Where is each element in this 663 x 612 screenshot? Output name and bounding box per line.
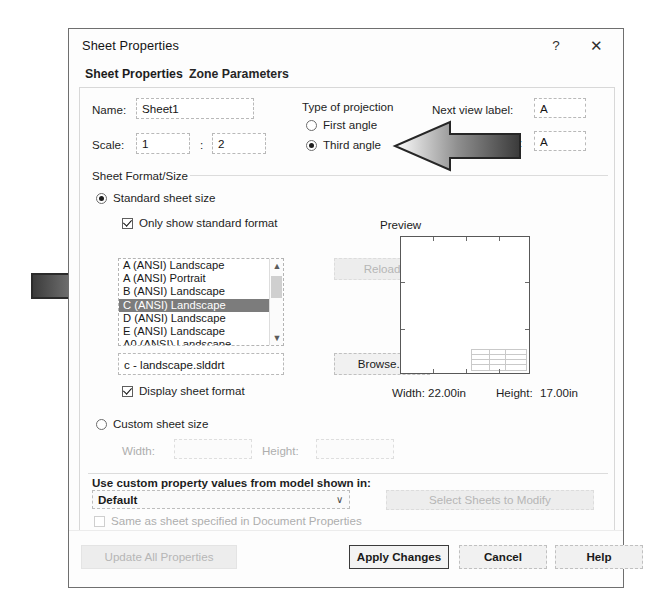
listbox-item[interactable]: D (ANSI) Landscape [119, 312, 283, 325]
scale-numerator-input[interactable]: 1 [136, 133, 190, 154]
projection-group-label: Type of projection [302, 100, 394, 113]
custom-property-label: Use custom property values from model sh… [92, 476, 371, 489]
listbox-item[interactable]: A (ANSI) Portrait [119, 272, 283, 285]
annotation-arrow-pointing-to-third-angle [392, 120, 522, 172]
tab-sheet-properties[interactable]: Sheet Properties [81, 65, 187, 83]
listbox-items: A (ANSI) LandscapeA (ANSI) PortraitB (AN… [119, 259, 283, 346]
preview-width-label: Width: [392, 386, 425, 399]
section-divider [88, 473, 608, 474]
listbox-item[interactable]: B (ANSI) Landscape [119, 285, 283, 298]
listbox-scrollbar[interactable]: ▲ ▼ [269, 259, 283, 345]
name-label: Name: [92, 103, 126, 116]
sheet-format-file-input[interactable]: c - landscape.slddrt [118, 353, 284, 375]
scroll-down-icon[interactable]: ▼ [270, 331, 284, 345]
help-button[interactable]: Help [555, 545, 643, 569]
help-icon[interactable]: ? [543, 35, 569, 57]
preview-title-block [471, 349, 527, 371]
next-datum-input[interactable]: A [534, 131, 586, 151]
custom-property-dropdown[interactable]: Default ∨ [92, 490, 350, 509]
listbox-item[interactable]: C (ANSI) Landscape [119, 299, 283, 312]
scale-denominator-input[interactable]: 2 [212, 133, 266, 154]
radio-custom-sheet-size[interactable] [96, 419, 107, 430]
listbox-item[interactable]: A0 (ANSI) Landscape [119, 338, 283, 346]
preview-width-value: 22.00in [428, 386, 466, 399]
custom-height-input[interactable] [316, 439, 394, 459]
preview-label: Preview [380, 218, 421, 231]
radio-standard-sheet-size[interactable] [96, 193, 107, 204]
name-input[interactable]: Sheet1 [136, 98, 254, 119]
scale-separator: : [200, 138, 203, 151]
preview-thumbnail [400, 236, 530, 374]
tabstrip: Sheet Properties Zone Parameters [69, 63, 623, 87]
preview-height-value: 17.00in [540, 386, 578, 399]
dialog-titlebar: Sheet Properties ? ✕ [69, 29, 623, 63]
custom-width-label: Width: [122, 444, 155, 457]
listbox-item[interactable]: A (ANSI) Landscape [119, 259, 283, 272]
standard-sheet-size-label: Standard sheet size [113, 191, 215, 204]
first-angle-label: First angle [323, 118, 377, 131]
checkbox-same-as-sheet-document-properties[interactable] [94, 516, 105, 527]
scrollbar-thumb[interactable] [271, 276, 282, 298]
dialog-footer: Update All Properties Apply Changes Canc… [69, 530, 623, 587]
sheet-properties-panel: Name: Sheet1 Scale: 1 : 2 Type of projec… [79, 87, 615, 531]
third-angle-label: Third angle [323, 138, 381, 151]
checkbox-only-show-standard-format[interactable] [122, 218, 133, 229]
sheet-properties-dialog: Sheet Properties ? ✕ Sheet Properties Zo… [68, 28, 624, 588]
preview-height-label: Height: [496, 386, 533, 399]
custom-property-dropdown-value: Default [98, 493, 137, 506]
update-all-properties-button[interactable]: Update All Properties [81, 545, 237, 569]
cancel-button[interactable]: Cancel [459, 545, 547, 569]
radio-first-angle[interactable] [306, 120, 317, 131]
scale-label: Scale: [92, 138, 124, 151]
next-view-label: Next view label: [432, 103, 513, 116]
close-icon[interactable]: ✕ [583, 35, 609, 57]
same-as-sheet-label: Same as sheet specified in Document Prop… [111, 514, 362, 527]
group-divider [190, 175, 608, 176]
sheet-format-group-label: Sheet Format/Size [92, 169, 188, 182]
tab-zone-parameters[interactable]: Zone Parameters [185, 65, 293, 83]
sheet-format-listbox[interactable]: A (ANSI) LandscapeA (ANSI) PortraitB (AN… [118, 258, 284, 346]
apply-changes-button[interactable]: Apply Changes [349, 545, 449, 569]
scroll-up-icon[interactable]: ▲ [270, 259, 284, 273]
select-sheets-to-modify-button[interactable]: Select Sheets to Modify [386, 490, 594, 510]
only-show-standard-format-label: Only show standard format [139, 216, 278, 229]
dialog-title: Sheet Properties [82, 38, 179, 53]
next-view-input[interactable]: A [534, 98, 586, 118]
custom-width-input[interactable] [174, 439, 252, 459]
custom-height-label: Height: [262, 444, 299, 457]
radio-third-angle[interactable] [306, 140, 317, 151]
custom-sheet-size-label: Custom sheet size [113, 417, 208, 430]
chevron-down-icon: ∨ [336, 494, 343, 505]
listbox-item[interactable]: E (ANSI) Landscape [119, 325, 283, 338]
checkbox-display-sheet-format[interactable] [122, 386, 133, 397]
display-sheet-format-label: Display sheet format [139, 384, 245, 397]
